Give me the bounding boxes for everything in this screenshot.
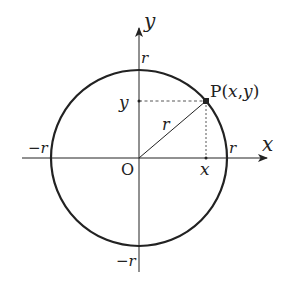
origin-label: O (121, 160, 134, 179)
x-positive-r-label: r (229, 139, 237, 157)
y-point-label: y (118, 92, 129, 112)
point-p-label: P(x,y) (210, 81, 259, 101)
y-tick-dot (138, 100, 141, 103)
y-negative-r-label: −r (116, 252, 137, 270)
circle-diagram: y x r −r −r r y x r O P(x,y) (0, 0, 294, 300)
radius-line (139, 101, 206, 158)
diagram-canvas: y x r −r −r r y x r O P(x,y) (0, 0, 294, 300)
x-axis-label: x (262, 132, 273, 156)
y-positive-r-label: r (141, 49, 149, 67)
radius-label: r (162, 115, 171, 134)
x-point-label: x (200, 159, 210, 179)
x-negative-r-label: −r (28, 139, 49, 157)
y-axis-label: y (143, 9, 156, 33)
point-p-marker (203, 98, 209, 104)
